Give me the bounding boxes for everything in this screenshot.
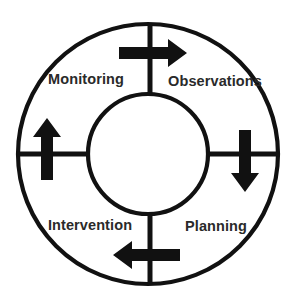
inner-circle (88, 94, 208, 214)
stage-label-monitoring: Monitoring (48, 71, 124, 87)
arrow-bottom-leftward (113, 241, 180, 269)
arrow-top-rightward (119, 39, 187, 67)
arrow-left-upward (33, 118, 61, 180)
arrow-right-downward (231, 130, 259, 192)
stage-label-observations: Observations (168, 73, 262, 89)
cycle-diagram-canvas: Monitoring Observations Intervention Pla… (0, 0, 294, 301)
stage-label-planning: Planning (185, 218, 247, 234)
stage-label-intervention: Intervention (48, 217, 132, 233)
cycle-diagram: Monitoring Observations Intervention Pla… (0, 0, 294, 301)
